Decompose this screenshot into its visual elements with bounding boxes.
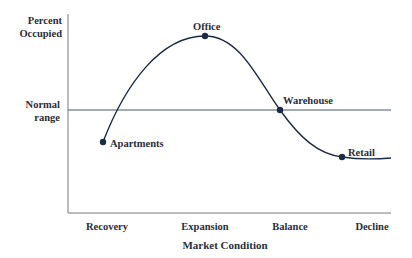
point-apartments	[100, 139, 106, 145]
market-cycle-chart: Apartments Office Warehouse Retail Perce…	[0, 0, 412, 258]
x-label-decline: Decline	[355, 221, 389, 232]
point-retail	[339, 154, 345, 160]
x-label-balance: Balance	[272, 221, 308, 232]
y-label-percent: Percent	[28, 15, 63, 26]
point-office	[202, 33, 208, 39]
label-office: Office	[193, 21, 221, 32]
y-label-range: range	[34, 112, 60, 123]
label-warehouse: Warehouse	[283, 95, 333, 106]
point-warehouse	[277, 107, 283, 113]
y-label-normal: Normal	[26, 99, 60, 110]
label-retail: Retail	[348, 147, 375, 158]
y-label-occupied: Occupied	[19, 28, 62, 39]
x-label-expansion: Expansion	[181, 221, 228, 232]
x-label-recovery: Recovery	[86, 221, 129, 232]
x-axis-title: Market Condition	[182, 239, 267, 251]
label-apartments: Apartments	[110, 138, 164, 149]
